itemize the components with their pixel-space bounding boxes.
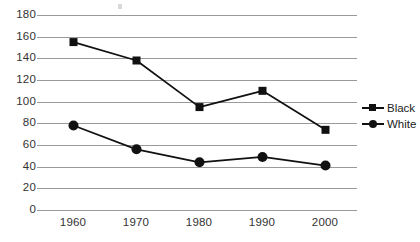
- gridline: [42, 210, 357, 211]
- y-tick-label: 40: [2, 161, 36, 173]
- x-tick-label: 1980: [169, 216, 229, 228]
- series-white: [69, 121, 331, 171]
- y-tick-label: 100: [2, 96, 36, 108]
- y-tick-label: 0: [2, 204, 36, 216]
- line-chart: 180 160 140 120 100 80 60 40 20 0: [0, 0, 420, 242]
- scan-artifact: [118, 4, 122, 9]
- y-tick-label: 60: [2, 139, 36, 151]
- y-tick-label: 80: [2, 117, 36, 129]
- legend-item-white[interactable]: White: [362, 116, 420, 131]
- data-point-square[interactable]: [196, 103, 204, 111]
- circle-marker-icon: [362, 118, 384, 130]
- legend-item-black[interactable]: Black: [362, 100, 420, 115]
- y-tick-label: 180: [2, 9, 36, 21]
- data-point-circle[interactable]: [321, 161, 331, 171]
- data-series-layer: [42, 15, 357, 210]
- square-marker-icon: [362, 102, 384, 114]
- data-point-square[interactable]: [133, 57, 141, 65]
- data-point-circle[interactable]: [69, 121, 79, 131]
- x-tick-label: 2000: [295, 216, 355, 228]
- y-tick-label: 140: [2, 52, 36, 64]
- legend-label: White: [384, 118, 416, 130]
- series-black: [70, 38, 330, 134]
- plot-area: [42, 15, 357, 210]
- legend-label: Black: [384, 102, 415, 114]
- y-tick-label: 120: [2, 74, 36, 86]
- x-tick-label: 1970: [106, 216, 166, 228]
- data-point-square[interactable]: [259, 87, 267, 95]
- x-tick-label: 1990: [232, 216, 292, 228]
- data-point-square[interactable]: [322, 126, 330, 134]
- data-point-circle[interactable]: [258, 152, 268, 162]
- y-tick-label: 160: [2, 31, 36, 43]
- data-point-circle[interactable]: [195, 157, 205, 167]
- y-tick-label: 20: [2, 182, 36, 194]
- data-point-circle[interactable]: [132, 144, 142, 154]
- legend: Black White: [362, 100, 420, 132]
- data-point-square[interactable]: [70, 38, 78, 46]
- series-line: [74, 42, 326, 130]
- y-axis: 180 160 140 120 100 80 60 40 20 0: [0, 15, 36, 210]
- x-tick-label: 1960: [43, 216, 103, 228]
